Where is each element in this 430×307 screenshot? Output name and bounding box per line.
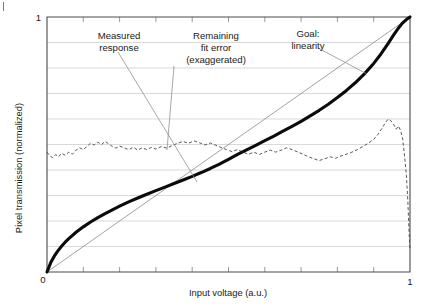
fit-error-line3: (exaggerated) bbox=[186, 54, 246, 65]
annotation-remaining-fit-error: Remaining fit error (exaggerated) bbox=[186, 30, 246, 65]
fit-error-leader bbox=[167, 66, 174, 150]
fit-error-line2: fit error bbox=[201, 42, 232, 53]
remaining-fit-error-curve bbox=[47, 119, 410, 249]
figure-container: 1 0 1 Input voltage (a.u.) Pixel transmi… bbox=[0, 0, 430, 307]
measured-response-line2: response bbox=[99, 42, 138, 53]
measured-response-leader bbox=[118, 52, 197, 182]
annotation-measured-response: Measured response bbox=[98, 30, 141, 53]
x-axis-title: Input voltage (a.u.) bbox=[189, 287, 267, 298]
goal-linearity-line1: Goal: bbox=[297, 28, 320, 39]
measured-response-line1: Measured bbox=[98, 30, 141, 41]
fit-error-line1: Remaining bbox=[193, 30, 239, 41]
goal-linearity-line2: linearity bbox=[291, 40, 324, 51]
response-linearity-chart: 1 0 1 Input voltage (a.u.) Pixel transmi… bbox=[0, 0, 430, 307]
corner-crop-mark bbox=[3, 2, 4, 11]
y-axis-max-label: 1 bbox=[36, 12, 41, 23]
y-axis-title: Pixel transmission (normalized) bbox=[13, 103, 24, 233]
annotation-goal-linearity: Goal: linearity bbox=[291, 28, 324, 51]
origin-label: 0 bbox=[40, 274, 45, 285]
x-axis-max-label: 1 bbox=[407, 276, 412, 287]
